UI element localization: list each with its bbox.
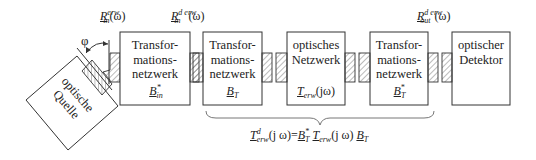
input-port-label: Rerwin(ω) [100, 10, 125, 23]
angle-phi-label: φ [81, 34, 89, 47]
transfer-formula: Tderw(j ω)=B*T Terw(j ω) BT [250, 128, 368, 143]
transform-in-label: Transfor- mations- netzwerk [120, 38, 190, 82]
output-port-d-label: Rd erwout(ω) [417, 10, 450, 23]
curly-brace [206, 111, 434, 125]
transform-t-star-label: Transfor- mations- netzwerk [370, 38, 428, 82]
input-port-d-label: Rd erwin(ω) [171, 10, 204, 23]
transform-t-symbol: BT [203, 84, 262, 99]
transform-in-symbol: Bin* [120, 84, 190, 99]
detector-label: optischer Detektor [452, 38, 510, 67]
transform-t-label: Transfor- mations- netzwerk [203, 38, 262, 82]
transform-t-star-symbol: BT* [370, 84, 428, 99]
optical-network-symbol: Terw(jω) [287, 84, 345, 99]
optical-network-label: optisches Netzwerk [287, 38, 345, 67]
